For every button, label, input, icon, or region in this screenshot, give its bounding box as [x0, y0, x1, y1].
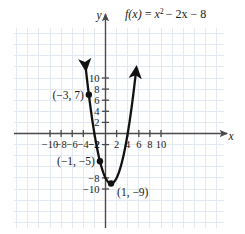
x-tick-label: −8 [56, 139, 67, 150]
x-axis-label: x [227, 130, 234, 142]
data-point-marker [97, 158, 103, 164]
y-tick-label: 6 [94, 95, 99, 106]
x-tick-label: 6 [136, 139, 141, 150]
y-tick-label: −8 [88, 173, 99, 184]
y-axis-label: y [95, 9, 102, 22]
y-tick-label: 2 [94, 117, 99, 128]
function-equation-label: f(x)=x2− 2x − 8 [125, 7, 206, 21]
data-point-marker [86, 91, 92, 97]
graph-canvas: −10−8−6−4−2246810 108642−2−8−10 (−3, 7)(… [0, 0, 245, 234]
x-tick-label: 10 [156, 139, 167, 150]
x-tick-label: 8 [147, 139, 152, 150]
y-tick-label: 10 [89, 73, 100, 84]
data-point-marker [108, 180, 114, 186]
data-point-label: (1, −9) [117, 186, 149, 199]
y-tick-label: 8 [94, 84, 99, 95]
y-tick-label: 4 [94, 106, 100, 117]
data-point-label: (−3, 7) [52, 89, 84, 102]
data-point-label: (−1, −5) [57, 155, 95, 168]
x-tick-label: 2 [114, 139, 119, 150]
y-tick-label: −10 [83, 184, 99, 195]
x-tick-label: −6 [67, 139, 78, 150]
parabola-graph-figure: −10−8−6−4−2246810 108642−2−8−10 (−3, 7)(… [0, 0, 245, 234]
